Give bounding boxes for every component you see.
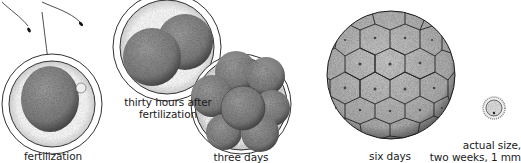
label-fertilization: fertilization xyxy=(12,150,94,162)
label-two-weeks: actual size, two weeks, 1 mm xyxy=(427,139,521,163)
two-week-embryo-actual-size xyxy=(483,97,505,119)
label-two-weeks-line2: two weeks, 1 mm xyxy=(427,151,521,163)
label-thirty-hours: thirty hours after fertilization xyxy=(118,96,218,120)
label-two-weeks-line1: actual size, xyxy=(427,139,521,151)
label-six-days: six days xyxy=(355,150,425,162)
label-thirty-hours-line1: thirty hours after xyxy=(118,96,218,108)
blastocyst-embryo xyxy=(320,9,456,140)
label-thirty-hours-line2: fertilization xyxy=(118,108,218,120)
label-three-days: three days xyxy=(206,151,276,163)
fertilization-egg xyxy=(2,2,102,154)
